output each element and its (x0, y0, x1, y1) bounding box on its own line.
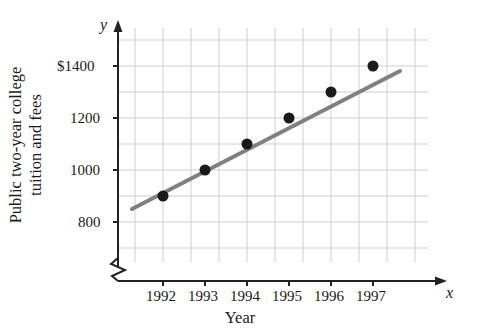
x-tick-label-1995: 1995 (272, 288, 302, 305)
data-point (158, 191, 169, 202)
y-tick-label-1200: 1200 (70, 110, 100, 127)
grid-lines (118, 28, 428, 262)
y-axis-title-line1: Public two-year college (6, 14, 26, 276)
y-axis-title: Public two-year college tuition and fees (6, 14, 52, 276)
y-axis-title-line2: tuition and fees (26, 14, 46, 276)
data-point (284, 113, 295, 124)
data-point (200, 165, 211, 176)
x-axis (118, 277, 447, 286)
x-tick-label-1994: 1994 (230, 288, 260, 305)
x-axis-title: Year (180, 308, 300, 328)
y-tick-label-1400: $1400 (57, 58, 95, 75)
y-axis-letter: y (100, 16, 107, 34)
x-axis-letter: x (446, 284, 453, 302)
x-tick-label-1993: 1993 (188, 288, 218, 305)
data-point (326, 87, 337, 98)
y-tick-label-1000: 1000 (70, 162, 100, 179)
x-tick-label-1997: 1997 (356, 288, 386, 305)
chart-figure: y x 800 1000 1200 $1400 1992 1993 1994 1… (0, 0, 484, 335)
data-point (242, 139, 253, 150)
y-tick-label-800: 800 (78, 214, 101, 231)
y-axis (111, 20, 125, 281)
x-tick-label-1996: 1996 (314, 288, 344, 305)
x-tick-label-1992: 1992 (146, 288, 176, 305)
data-point (368, 61, 379, 72)
